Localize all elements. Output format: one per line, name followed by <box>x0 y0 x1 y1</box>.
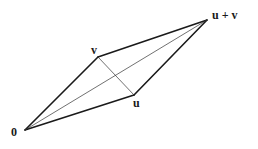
label-v: v <box>91 43 97 57</box>
label-u-plus-v: u + v <box>212 8 238 22</box>
edge-v-to-u-plus-v <box>98 20 207 57</box>
diagonal-origin-to-u-plus-v <box>25 20 207 130</box>
label-origin: 0 <box>11 125 17 139</box>
edge-origin-to-u <box>25 95 134 130</box>
diagonal-v-to-u <box>98 57 134 95</box>
label-u: u <box>133 96 140 110</box>
parallelogram-diagram: 0 v u u + v <box>0 0 258 149</box>
